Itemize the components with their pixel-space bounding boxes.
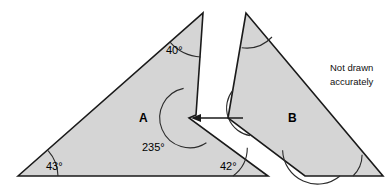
- note-line-1: Not drawn: [330, 62, 373, 73]
- shape-b-outline: [228, 13, 383, 176]
- shape-label-a: A: [139, 111, 148, 125]
- angle-label-235: 235°: [142, 141, 165, 153]
- shape-label-b: B: [288, 111, 297, 125]
- diagram-canvas: 40° 235° 43° 42° A B Not drawn accuratel…: [0, 0, 391, 193]
- angle-label-42: 42°: [220, 160, 237, 172]
- note-line-2: accurately: [330, 76, 374, 87]
- geometry-figure: 40° 235° 43° 42° A B Not drawn accuratel…: [0, 0, 391, 193]
- angle-label-40: 40°: [166, 44, 183, 56]
- angle-label-43: 43°: [46, 160, 63, 172]
